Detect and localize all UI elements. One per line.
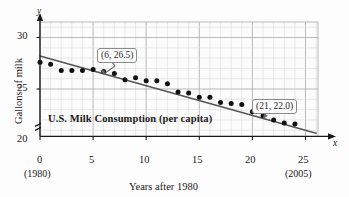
y-tick-label-20: 20 (17, 134, 28, 145)
data-point (239, 102, 244, 107)
data-point (207, 95, 212, 100)
start-year-label: (1980) (24, 169, 51, 179)
x-tick-label-0: 0 (37, 155, 42, 166)
data-point (218, 100, 223, 105)
annotation-callout-1: (6, 26.5) (97, 48, 137, 63)
y-axis-variable-label: y (37, 7, 41, 17)
data-point (229, 101, 234, 106)
x-axis-title: Years after 1980 (129, 182, 198, 193)
x-axis-variable-label: x (333, 139, 337, 149)
data-point (154, 78, 159, 83)
data-point (133, 75, 138, 80)
data-point (197, 95, 202, 100)
data-point (112, 71, 117, 76)
data-point (69, 68, 74, 73)
data-point (80, 68, 85, 73)
x-tick-label-15: 15 (192, 155, 203, 166)
annotation-callout-2: (21, 22.0) (252, 99, 297, 114)
x-tick-label-10: 10 (139, 155, 150, 166)
x-tick-label-20: 20 (245, 155, 256, 166)
chart-title: U.S. Milk Consumption (per capita) (48, 114, 212, 125)
data-point (144, 78, 149, 83)
x-tick-label-25: 25 (298, 155, 309, 166)
data-point (165, 81, 170, 86)
x-tick-label-5: 5 (89, 155, 94, 166)
data-point (186, 91, 191, 96)
data-point (59, 68, 64, 73)
data-point (122, 77, 127, 82)
data-point (91, 67, 96, 72)
data-point (48, 62, 53, 67)
data-point (292, 122, 297, 127)
data-point (282, 120, 287, 125)
y-axis-title: Gallons of milk (14, 58, 25, 124)
y-tick-label-30: 30 (17, 31, 28, 42)
end-year-label: (2005) (285, 169, 312, 179)
data-point (176, 90, 181, 95)
data-point (271, 117, 276, 122)
milk-consumption-chart: 30 25 20 0 5 10 15 20 25 (1980) (2005) y… (0, 0, 349, 197)
